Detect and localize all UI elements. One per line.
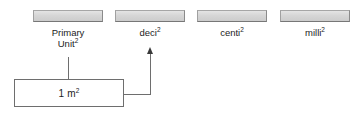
unit-label-milli: milli2 bbox=[280, 28, 350, 39]
unit-label-milli-text: milli bbox=[305, 27, 321, 38]
unit-label-primary-unit: Primary Unit2 bbox=[33, 28, 103, 49]
unit-label-milli-exponent: 2 bbox=[321, 26, 325, 33]
unit-header-bar-deci bbox=[115, 10, 185, 22]
value-box-value: 1 m bbox=[58, 88, 75, 99]
value-box-exponent: 2 bbox=[76, 86, 80, 93]
connector-primary-unit-stem bbox=[68, 57, 69, 79]
unit-header-bar-milli bbox=[280, 10, 350, 22]
unit-label-centi-exponent: 2 bbox=[240, 26, 244, 33]
unit-header-bar-centi bbox=[197, 10, 267, 22]
unit-label-deci-exponent: 2 bbox=[157, 26, 161, 33]
connector-deci-vertical bbox=[150, 53, 151, 95]
value-box-text: 1 m2 bbox=[58, 88, 79, 99]
arrow-up-icon bbox=[147, 47, 153, 54]
unit-label-deci-text: deci bbox=[139, 27, 156, 38]
unit-label-centi: centi2 bbox=[197, 28, 267, 39]
unit-label-deci: deci2 bbox=[115, 28, 185, 39]
unit-label-primary-unit-text: Primary Unit bbox=[52, 27, 85, 49]
unit-label-primary-unit-exponent: 2 bbox=[75, 36, 79, 43]
unit-label-centi-text: centi bbox=[220, 27, 240, 38]
unit-conversion-diagram: Primary Unit2 deci2 centi2 milli2 1 m2 bbox=[0, 0, 359, 117]
unit-header-bar-primary-unit bbox=[33, 10, 103, 22]
value-box-primary-unit: 1 m2 bbox=[14, 79, 124, 107]
connector-deci-horizontal bbox=[124, 94, 151, 95]
